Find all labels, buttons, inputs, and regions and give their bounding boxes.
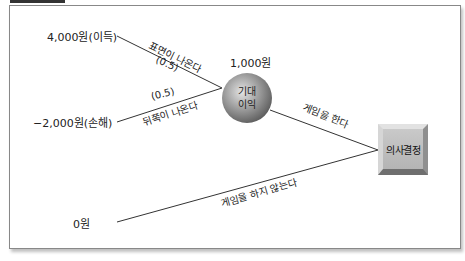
outcome-no-game-value: 0원 xyxy=(73,218,90,231)
branch-label-no-play: 게임을 하지 않는다 xyxy=(219,176,298,209)
branch-line-no-play xyxy=(117,150,378,222)
diagram-stage: 4,000원(이득) −2,000원(손해) 0원 표면이 나온다 (0.5) … xyxy=(0,0,465,261)
chance-node-label-line2: 이익 xyxy=(238,99,256,110)
chance-node-sphere xyxy=(222,73,272,123)
chance-node-value: 1,000원 xyxy=(230,57,272,70)
branch-label-tails: 뒤쪽이 나온다 xyxy=(141,100,199,128)
branch-prob-tails: (0.5) xyxy=(150,86,176,102)
decision-node-label: 의사결정 xyxy=(386,142,420,157)
decision-node-box: 의사결정 xyxy=(378,124,428,175)
branch-label-play: 게임을 한다 xyxy=(301,101,350,130)
outcome-tails-value: −2,000원(손해) xyxy=(33,116,112,130)
chance-node-label-line1: 기대 xyxy=(238,86,256,97)
outcome-heads-value: 4,000원(이득) xyxy=(47,31,117,44)
